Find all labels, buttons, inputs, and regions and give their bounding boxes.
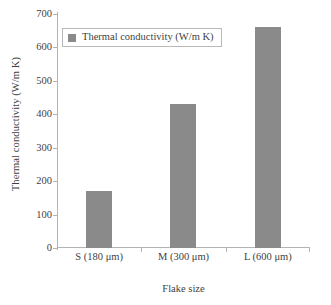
legend-label: Thermal conductivity (W/m K): [82, 32, 214, 43]
y-axis-tick-label: 400: [36, 109, 52, 120]
x-axis-tick-label: M (300 μm): [158, 252, 209, 263]
x-axis-title: Flake size: [57, 283, 310, 294]
bar-group: [141, 14, 225, 248]
chart-legend: Thermal conductivity (W/m K): [62, 28, 222, 47]
y-axis-tick-labels: 0100200300400500600700: [26, 8, 52, 252]
y-axis-title: Thermal conductivity (W/m K): [6, 0, 24, 248]
bar[interactable]: [86, 191, 112, 248]
bar-series: [57, 14, 310, 248]
y-axis-tick-label: 100: [36, 209, 52, 220]
x-axis-tick-label: L (600 μm): [244, 252, 292, 263]
y-axis-tick-label: 300: [36, 142, 52, 153]
y-axis-tick-label: 0: [47, 243, 52, 254]
x-axis-tick-labels: S (180 μm)M (300 μm)L (600 μm): [57, 252, 310, 268]
y-axis-tick-label: 700: [36, 9, 52, 20]
bar-chart-figure: Thermal conductivity (W/m K) 01002003004…: [0, 0, 331, 305]
y-axis-tick-mark: [53, 248, 57, 249]
plot-area: [57, 14, 310, 248]
bar[interactable]: [170, 104, 196, 248]
x-axis-tick-label: S (180 μm): [75, 252, 123, 263]
bar-group: [57, 14, 141, 248]
bar[interactable]: [255, 27, 281, 248]
bar-group: [226, 14, 310, 248]
y-axis-tick-label: 500: [36, 76, 52, 87]
legend-swatch-icon: [68, 34, 76, 42]
y-axis-tick-label: 600: [36, 42, 52, 53]
y-axis-tick-label: 200: [36, 176, 52, 187]
